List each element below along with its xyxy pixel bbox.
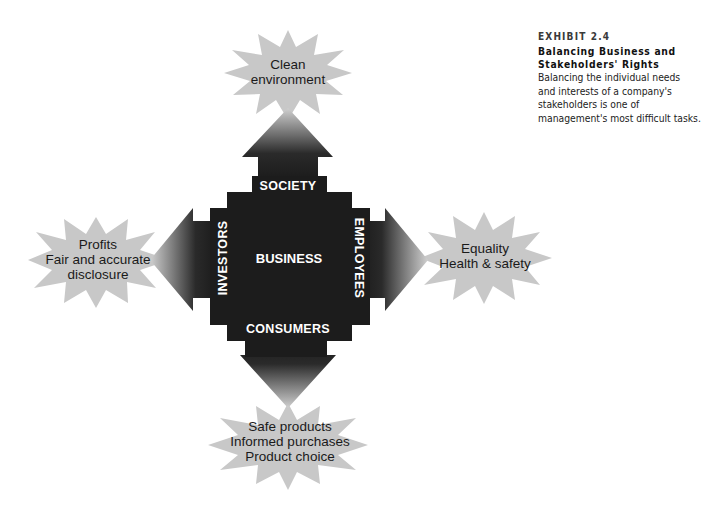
right-bottom-line-1: Safe products [248,419,332,434]
label-society: SOCIETY [260,179,317,193]
right-bottom-line-2: Informed purchases [230,434,350,449]
arrow-right [362,208,428,311]
caption-body-line-1: Balancing the individual needs [538,71,695,85]
caption-body-line-3: stakeholders is one of [538,98,695,112]
caption-body-line-2: and interests of a company's [538,85,695,99]
caption-title-line-2: Stakeholders' Rights [538,58,688,71]
right-right-line-1: Equality [461,241,509,256]
caption-body-line-4: management's most difficult tasks. [538,112,695,126]
right-left-line-1: Profits [79,237,118,252]
right-top-line-1: Clean [270,57,305,72]
right-left-line-2: Fair and accurate [45,252,150,267]
label-investors: INVESTORS [216,221,230,296]
label-employees: EMPLOYEES [352,218,366,299]
label-consumers: CONSUMERS [246,322,330,336]
label-business: BUSINESS [256,251,323,266]
right-top-line-2: environment [251,72,326,87]
exhibit-label: EXHIBIT 2.4 [538,30,684,43]
caption-title-line-1: Balancing Business and [538,45,688,58]
exhibit-caption: EXHIBIT 2.4 Balancing Business and Stake… [538,30,716,125]
right-right-line-2: Health & safety [439,256,531,271]
right-bottom-line-3: Product choice [245,449,334,464]
right-left-line-3: disclosure [68,267,129,282]
arrow-left [150,208,215,311]
arrow-up [242,108,333,178]
